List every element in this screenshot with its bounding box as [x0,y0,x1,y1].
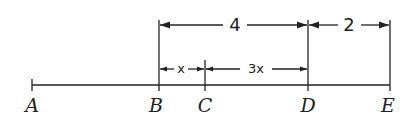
point-label-A: A [23,94,39,116]
dimension-label-3x: 3x [248,61,264,76]
arrow-right-icon [197,67,204,72]
dimension-CD: 3x [206,61,307,76]
arrow-left-icon [160,67,167,72]
arrow-right-icon [297,22,307,29]
segment-diagram: 4 2 x 3x A B C D E [0,0,415,122]
dimension-BD: 4 [160,14,307,35]
arrow-right-icon [300,67,307,72]
arrow-left-icon [309,22,319,29]
dimension-label-4: 4 [229,14,240,35]
dimension-label-2: 2 [343,14,354,35]
arrow-right-icon [379,22,389,29]
point-label-E: E [380,94,395,116]
arrow-left-icon [160,22,170,29]
dimension-BC: x [160,61,204,76]
dimension-label-x: x [177,61,185,76]
point-label-D: D [299,94,315,116]
point-label-B: B [148,94,163,116]
arrow-left-icon [206,67,213,72]
point-label-C: C [198,94,213,116]
dimension-DE: 2 [309,14,389,35]
